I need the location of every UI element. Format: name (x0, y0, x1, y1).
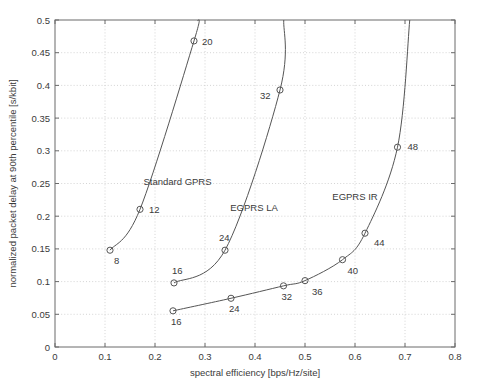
x-tick-label-8: 0.8 (448, 351, 461, 362)
data-point-label: 16 (172, 265, 183, 276)
series-annotation-label: Standard GPRS (143, 176, 211, 187)
y-tick-label-2: 0.1 (37, 276, 50, 287)
x-tick-label-0: 0 (52, 351, 57, 362)
y-tick-label-9: 0.45 (32, 47, 51, 58)
data-point-label: 44 (374, 237, 385, 248)
y-tick-label-4: 0.2 (37, 211, 50, 222)
y-tick-label-1: 0.05 (32, 309, 51, 320)
data-point-label: 40 (348, 265, 359, 276)
y-tick-label-10: 0.5 (37, 15, 50, 26)
data-point-label: 8 (114, 255, 119, 266)
x-tick-label-3: 0.3 (198, 351, 211, 362)
x-axis-title: spectral efficiency [bps/Hz/site] (190, 367, 320, 378)
y-tick-label-8: 0.4 (37, 80, 50, 91)
series-annotation-label: EGPRS IR (332, 191, 378, 202)
data-point-label: 32 (282, 291, 293, 302)
y-tick-label-3: 0.15 (32, 243, 51, 254)
data-point-label: 48 (408, 141, 419, 152)
y-tick-label-7: 0.35 (32, 113, 51, 124)
y-axis-title: normalized packet delay at 90th percenti… (7, 79, 18, 287)
figure-container: 00.10.20.30.40.50.60.70.800.050.10.150.2… (0, 0, 478, 391)
y-tick-label-5: 0.25 (32, 178, 51, 189)
data-point-label: 36 (312, 286, 323, 297)
series-annotation-label: EGPRS LA (230, 202, 278, 213)
x-tick-label-2: 0.2 (148, 351, 161, 362)
data-point-label: 32 (260, 90, 271, 101)
plot-background (55, 20, 455, 347)
y-tick-label-6: 0.3 (37, 145, 50, 156)
data-point-label: 24 (219, 232, 230, 243)
y-tick-label-0: 0 (45, 342, 50, 353)
data-point-label: 24 (229, 303, 240, 314)
data-point-label: 20 (202, 36, 213, 47)
data-point-label: 12 (149, 204, 160, 215)
chart-canvas: 00.10.20.30.40.50.60.70.800.050.10.150.2… (0, 0, 478, 391)
x-tick-label-6: 0.6 (348, 351, 361, 362)
x-tick-label-7: 0.7 (398, 351, 411, 362)
x-tick-label-4: 0.4 (248, 351, 261, 362)
x-tick-label-1: 0.1 (98, 351, 111, 362)
data-point-label: 16 (171, 316, 182, 327)
x-tick-label-5: 0.5 (298, 351, 311, 362)
